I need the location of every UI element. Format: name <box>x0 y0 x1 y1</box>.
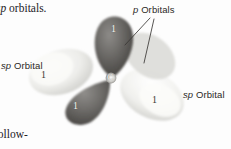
label-p-orbitals: p Orbitals <box>133 4 175 15</box>
label-p-orbitals-rest: Orbitals <box>138 4 174 15</box>
label-sp-orbital-left-rest: Orbital <box>11 60 42 71</box>
lobe-tag-sp-orbital-lower-right: 1 <box>152 95 157 105</box>
label-sp-orbital-right-italic: sp <box>183 89 193 100</box>
atom-symbol-carbon: C <box>107 72 113 82</box>
lobe-tag-p-orbital-lower-left: 1 <box>73 101 78 111</box>
body-text-fragment-top: sp orbitals. <box>0 2 46 14</box>
body-text-top-rest: orbitals. <box>6 2 46 14</box>
lobe-tag-p-orbital-upper: 1 <box>111 24 116 34</box>
label-sp-orbital-left-italic: sp <box>1 60 11 71</box>
label-sp-orbital-right-rest: Orbital <box>193 89 224 100</box>
label-sp-orbital-right: sp Orbital <box>183 89 225 100</box>
sp-hybridization-figure: sp orbitals. follow- sp Orbital sp Orbit… <box>0 0 231 149</box>
lobe-tag-sp-orbital-left: 1 <box>41 70 46 80</box>
label-sp-orbital-left: sp Orbital <box>1 60 43 71</box>
body-text-fragment-bottom: follow- <box>0 128 28 140</box>
